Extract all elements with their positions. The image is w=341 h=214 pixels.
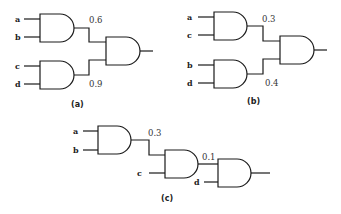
- input-label-b: b: [15, 32, 21, 42]
- input-label-c: c: [137, 168, 142, 178]
- gate-output-value: 0.3: [148, 128, 162, 138]
- caption-c: (c): [161, 194, 173, 203]
- input-label-a: a: [73, 126, 78, 136]
- gate-output-value: 0.6: [89, 15, 103, 25]
- and-gate-icon: [98, 126, 131, 154]
- gate-output-value: 0.9: [89, 79, 103, 89]
- input-label-d: d: [187, 78, 193, 88]
- input-label-a: a: [15, 14, 20, 24]
- panel-a: a b c d 0.6 0.9 (a): [15, 14, 153, 109]
- and-gate-icon: [218, 159, 251, 187]
- input-label-d: d: [194, 177, 200, 187]
- caption-b: (b): [247, 97, 260, 106]
- input-label-a: a: [187, 12, 192, 22]
- and-gate-icon: [165, 150, 198, 178]
- and-gate-icon: [106, 37, 140, 65]
- input-label-b: b: [187, 60, 193, 70]
- and-gate-icon: [214, 60, 247, 88]
- and-gate-icon: [214, 12, 247, 40]
- input-label-c: c: [187, 30, 192, 40]
- gate-output-value: 0.1: [202, 152, 216, 162]
- caption-a: (a): [71, 100, 84, 109]
- logic-diagram: a b c d 0.6 0.9 (a) a c b d 0.3 0.4 (b: [0, 0, 341, 214]
- input-label-c: c: [15, 61, 20, 71]
- and-gate-icon: [280, 36, 314, 64]
- panel-b: a c b d 0.3 0.4 (b): [187, 12, 327, 106]
- input-label-d: d: [15, 79, 21, 89]
- panel-c: a b c d 0.3 0.1 (c): [73, 126, 270, 203]
- gate-output-value: 0.3: [262, 14, 276, 24]
- and-gate-icon: [40, 14, 74, 42]
- input-label-b: b: [73, 145, 79, 155]
- and-gate-icon: [40, 61, 74, 89]
- gate-output-value: 0.4: [265, 78, 279, 88]
